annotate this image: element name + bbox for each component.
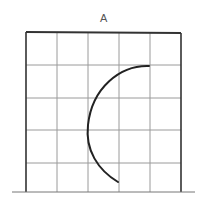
grid-lines (26, 32, 181, 192)
grid-border (26, 32, 181, 192)
figure-label: A (100, 12, 108, 24)
semicircle-arc (88, 66, 149, 182)
grid-figure: A (0, 0, 202, 209)
top-border (26, 32, 181, 33)
